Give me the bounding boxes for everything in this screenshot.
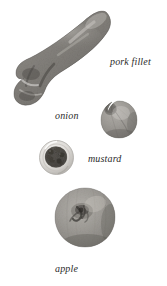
- apple-photo: [51, 186, 119, 250]
- ingredients-plate: pork fillet onion mustard apple: [0, 0, 167, 286]
- label-apple: apple: [55, 264, 78, 274]
- onion-photo: [97, 96, 140, 140]
- pork-fillet-photo: [8, 8, 116, 110]
- label-onion: onion: [55, 111, 79, 121]
- label-pork-fillet: pork fillet: [110, 57, 151, 67]
- mustard-bowl-photo: [38, 139, 76, 176]
- label-mustard: mustard: [88, 154, 121, 164]
